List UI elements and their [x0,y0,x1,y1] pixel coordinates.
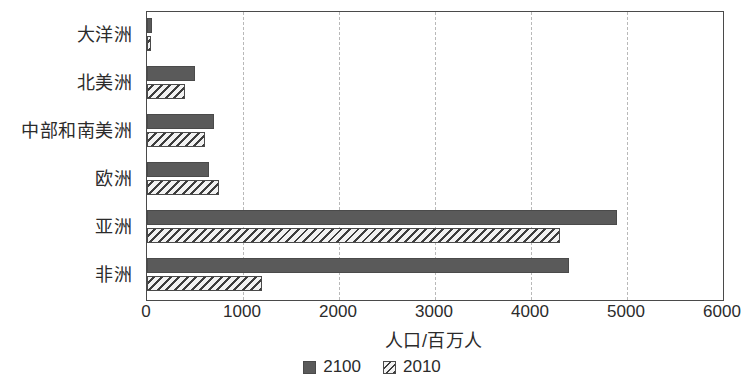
bar-group [147,108,723,156]
category-label: 非洲 [95,251,132,299]
bar-2010-北美洲 [147,84,185,99]
solid-square-icon [303,361,316,374]
y-axis-category-labels: 大洋洲北美洲中部和南美洲欧洲亚洲非洲 [0,11,140,299]
x-tick-label: 5000 [607,302,645,322]
bar-2010-大洋洲 [147,36,151,51]
x-tick-label: 0 [141,302,150,322]
bar-2100-欧洲 [147,162,209,177]
x-axis-title: 人口/百万人 [146,326,722,352]
bars-layer [147,12,723,300]
bar-2100-非洲 [147,258,569,273]
x-tick-label: 2000 [319,302,357,322]
category-label: 中部和南美洲 [21,107,132,155]
x-tick-label: 6000 [703,302,741,322]
bar-2010-亚洲 [147,228,560,243]
category-label: 亚洲 [95,203,132,251]
legend-label: 2100 [323,357,361,377]
x-axis-tick-labels: 0100020003000400050006000 [146,302,722,326]
bar-group [147,12,723,60]
chart-legend: 21002010 [0,357,744,377]
bar-2100-中部和南美洲 [147,114,214,129]
category-label: 大洋洲 [77,11,133,59]
category-label: 北美洲 [77,59,133,107]
x-tick-label: 1000 [223,302,261,322]
legend-item-2100[interactable]: 2100 [303,357,361,377]
x-tick-label: 3000 [415,302,453,322]
legend-label: 2010 [403,357,441,377]
bar-group [147,60,723,108]
category-label: 欧洲 [95,155,132,203]
bar-2100-大洋洲 [147,18,152,33]
bar-2100-北美洲 [147,66,195,81]
bar-group [147,204,723,252]
bar-group [147,252,723,300]
bar-2010-非洲 [147,276,262,291]
bar-group [147,156,723,204]
x-tick-label: 4000 [511,302,549,322]
hatched-square-icon [383,361,396,374]
legend-item-2010[interactable]: 2010 [383,357,441,377]
bar-2010-欧洲 [147,180,219,195]
bar-2010-中部和南美洲 [147,132,205,147]
bar-2100-亚洲 [147,210,617,225]
plot-area [146,11,724,301]
population-bar-chart: 大洋洲北美洲中部和南美洲欧洲亚洲非洲 010002000300040005000… [0,0,744,384]
